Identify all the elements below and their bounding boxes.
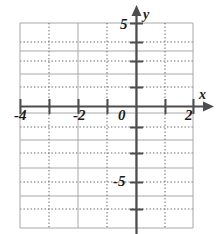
y-tick-label-pos5: 5 xyxy=(120,17,128,32)
x-tick-label-neg4: -4 xyxy=(14,108,27,123)
y-tick-label-neg5: -5 xyxy=(113,174,126,189)
y-axis-name-label: y xyxy=(143,8,149,22)
x-tick-label-pos2: 2 xyxy=(185,108,193,123)
x-tick-label-neg2: -2 xyxy=(73,108,86,123)
vertical-dotted-gridlines xyxy=(49,23,165,228)
y-axis xyxy=(130,5,143,234)
y-axis-arrowhead xyxy=(132,5,142,16)
x-axis-arrowhead xyxy=(203,102,214,112)
coordinate-graph: -4 -2 0 2 5 -5 y x xyxy=(0,0,219,234)
x-tick-label-zero: 0 xyxy=(118,108,126,123)
x-axis-name-label: x xyxy=(199,88,206,102)
